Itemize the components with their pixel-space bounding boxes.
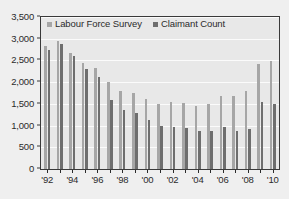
x-axis-tick-mark (147, 170, 148, 173)
bar-labour-force-survey (270, 61, 273, 169)
gridline (41, 104, 279, 105)
bar-claimant-count (110, 100, 113, 169)
y-axis-tick-label: 1,000 (11, 120, 34, 129)
bar-labour-force-survey (57, 41, 60, 169)
x-axis-tick-mark (185, 170, 186, 173)
x-axis-tick-label: '10 (267, 174, 279, 185)
x-axis-tick-mark (160, 170, 161, 173)
bar-labour-force-survey (44, 46, 47, 169)
x-axis-tick-label: '92 (41, 174, 53, 185)
bar-labour-force-survey (170, 102, 173, 169)
bar-claimant-count (85, 69, 88, 169)
bar-claimant-count (223, 127, 226, 169)
y-axis-tick-label: 3,500 (11, 12, 34, 21)
legend-entry: Labour Force Survey (47, 19, 142, 29)
y-axis-tick-label: 2,000 (11, 77, 34, 86)
bar-claimant-count (273, 104, 276, 169)
bar-claimant-count (135, 113, 138, 169)
y-axis-tick-label: 2,500 (11, 55, 34, 64)
x-axis-tick-label: '08 (242, 174, 254, 185)
x-axis-tick-label: '00 (142, 174, 154, 185)
x-axis-tick-label: '94 (66, 174, 78, 185)
legend-swatch-icon (47, 22, 52, 27)
legend-entry: Claimant Count (153, 19, 225, 29)
x-axis-tick-mark (72, 170, 73, 173)
bar-claimant-count (148, 120, 151, 169)
x-axis-tick-label: '96 (91, 174, 103, 185)
x-axis-tick-mark (198, 170, 199, 173)
bar-labour-force-survey (82, 63, 85, 169)
bar-claimant-count (98, 77, 101, 169)
x-axis-tick-mark (85, 170, 86, 173)
bar-labour-force-survey (107, 82, 110, 169)
bar-labour-force-survey (220, 96, 223, 169)
bar-claimant-count (123, 110, 126, 169)
x-axis-tick-label: '98 (117, 174, 129, 185)
x-axis-tick-mark (47, 170, 48, 173)
y-axis-tick-label: 3,000 (11, 33, 34, 42)
bar-claimant-count (60, 44, 63, 170)
x-axis-tick-mark (97, 170, 98, 173)
bar-labour-force-survey (207, 104, 210, 169)
y-axis-tick-label: 0 (29, 164, 34, 173)
bar-labour-force-survey (182, 103, 185, 169)
bar-labour-force-survey (232, 96, 235, 169)
bar-claimant-count (173, 127, 176, 169)
gridline (41, 39, 279, 40)
x-axis-tick-label: '02 (167, 174, 179, 185)
bar-claimant-count (261, 102, 264, 169)
bar-claimant-count (48, 50, 51, 169)
legend-swatch-icon (153, 22, 158, 27)
bar-labour-force-survey (195, 106, 198, 169)
bar-claimant-count (73, 56, 76, 169)
y-axis-tick-label: 500 (19, 142, 34, 151)
x-axis-tick-mark (122, 170, 123, 173)
legend-label: Claimant Count (161, 19, 225, 29)
plot-area: Labour Force SurveyClaimant Count (40, 16, 280, 170)
plot-inner (41, 17, 279, 169)
x-axis-tick-mark (135, 170, 136, 173)
x-axis-tick-mark (173, 170, 174, 173)
x-axis-tick-mark (235, 170, 236, 173)
bar-claimant-count (160, 126, 163, 169)
x-axis-tick-mark (223, 170, 224, 173)
bar-labour-force-survey (245, 91, 248, 169)
x-axis-tick-label: '06 (217, 174, 229, 185)
bar-claimant-count (198, 131, 201, 169)
bar-labour-force-survey (119, 91, 122, 169)
x-axis-tick-mark (260, 170, 261, 173)
bar-labour-force-survey (132, 93, 135, 169)
chart-legend: Labour Force SurveyClaimant Count (41, 17, 279, 33)
bar-claimant-count (210, 131, 213, 169)
y-axis: 05001,0001,5002,0002,5003,0003,500 (0, 10, 37, 176)
y-axis-tick-label: 1,500 (11, 98, 34, 107)
x-axis-tick-mark (110, 170, 111, 173)
x-axis-tick-mark (273, 170, 274, 173)
x-axis-tick-mark (60, 170, 61, 173)
x-axis: '92'94'96'98'00'02'04'06'08'10 (40, 170, 280, 194)
legend-label: Labour Force Survey (55, 19, 142, 29)
gridline (41, 60, 279, 61)
x-axis-tick-mark (248, 170, 249, 173)
bar-labour-force-survey (69, 53, 72, 169)
bar-claimant-count (236, 131, 239, 169)
gridline (41, 82, 279, 83)
x-axis-tick-label: '04 (192, 174, 204, 185)
x-axis-tick-mark (210, 170, 211, 173)
bar-labour-force-survey (94, 68, 97, 169)
bar-labour-force-survey (157, 104, 160, 169)
chart-figure: 05001,0001,5002,0002,5003,0003,500 Labou… (0, 0, 289, 199)
bar-claimant-count (185, 128, 188, 169)
bar-labour-force-survey (257, 64, 260, 169)
bar-labour-force-survey (145, 99, 148, 169)
bar-claimant-count (248, 129, 251, 169)
